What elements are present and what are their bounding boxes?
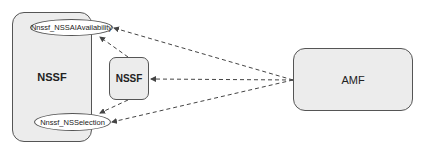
service-nssai-availability-label: Nnssf_NSSAIAvailability — [31, 23, 112, 32]
service-nssai-availability: Nnssf_NSSAIAvailability — [30, 19, 113, 36]
nssf-container-label: NSSF — [37, 71, 66, 83]
service-ns-selection: Nnssf_NSSelection — [34, 113, 111, 131]
arrow-nssf-to-selection — [100, 100, 128, 113]
amf-label: AMF — [341, 74, 364, 86]
service-ns-selection-label: Nnssf_NSSelection — [40, 118, 105, 127]
arrow-amf-to-nssf — [151, 79, 293, 80]
nssf-label: NSSF — [116, 73, 143, 84]
amf-box: AMF — [293, 48, 413, 111]
nssf-box: NSSF — [109, 57, 149, 100]
arrow-nssf-to-availability — [100, 37, 128, 57]
